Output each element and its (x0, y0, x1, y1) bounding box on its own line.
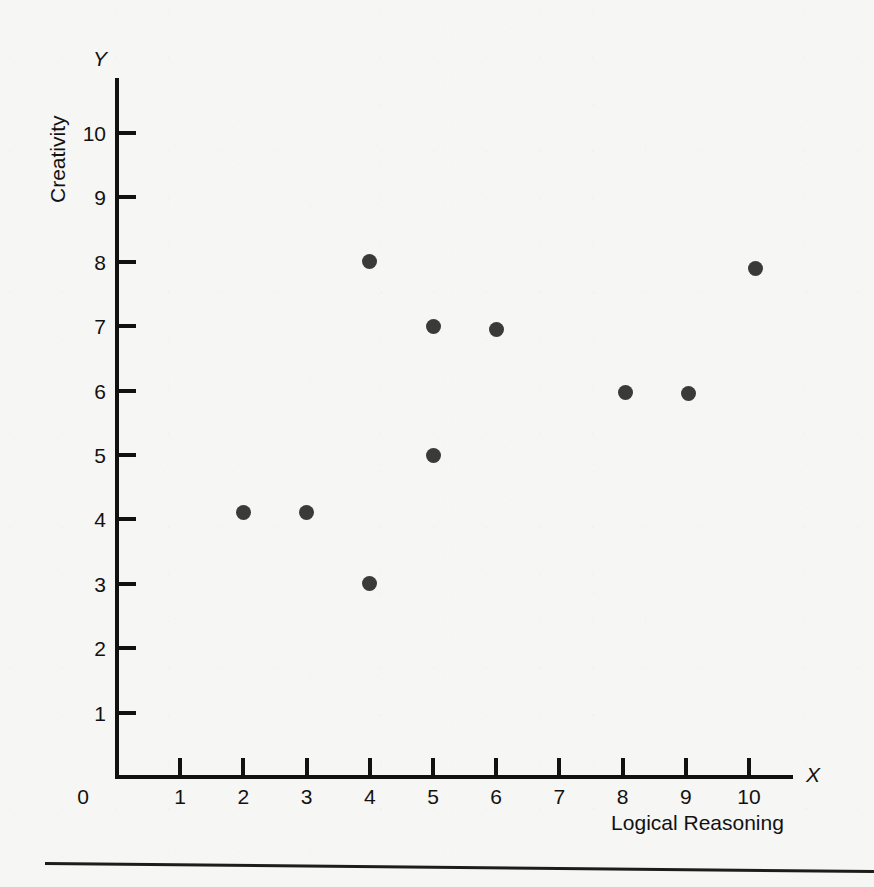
data-point (299, 505, 314, 520)
bottom-horizontal-rule (45, 862, 874, 873)
y-tick-label-9: 9 (60, 187, 106, 208)
y-tick-3 (119, 582, 136, 586)
x-tick-label-5: 5 (410, 786, 456, 807)
data-point (426, 448, 441, 463)
data-point (748, 261, 763, 276)
x-tick-label-6: 6 (473, 786, 519, 807)
y-tick-label-4: 4 (60, 509, 106, 530)
data-point (362, 254, 377, 269)
x-tick-label-7: 7 (536, 786, 582, 807)
y-tick-5 (119, 453, 136, 457)
data-point (681, 386, 696, 401)
x-tick-label-10: 10 (726, 786, 772, 807)
data-point (618, 385, 633, 400)
x-tick-label-3: 3 (284, 786, 330, 807)
y-tick-label-6: 6 (60, 381, 106, 402)
y-tick-label-3: 3 (60, 574, 106, 595)
y-tick-7 (119, 324, 136, 328)
y-axis-line (115, 78, 119, 779)
y-axis-symbol: Y (93, 48, 107, 69)
x-axis-line (115, 775, 793, 779)
y-tick-10 (119, 131, 136, 135)
data-point (236, 505, 251, 520)
x-axis-title: Logical Reasoning (560, 812, 835, 833)
y-tick-9 (119, 195, 136, 199)
x-tick-1 (178, 758, 182, 775)
x-tick-7 (557, 758, 561, 775)
x-tick-2 (241, 758, 245, 775)
x-tick-label-4: 4 (347, 786, 393, 807)
y-tick-1 (119, 711, 136, 715)
x-tick-4 (368, 758, 372, 775)
x-tick-label-2: 2 (220, 786, 266, 807)
x-tick-6 (494, 758, 498, 775)
x-tick-5 (431, 758, 435, 775)
data-point (362, 576, 377, 591)
x-axis-symbol: X (806, 764, 820, 785)
y-tick-label-5: 5 (60, 445, 106, 466)
data-point (489, 322, 504, 337)
x-tick-8 (621, 758, 625, 775)
x-tick-label-8: 8 (600, 786, 646, 807)
y-tick-label-7: 7 (60, 316, 106, 337)
y-tick-8 (119, 260, 136, 264)
y-tick-label-8: 8 (60, 252, 106, 273)
y-tick-label-10: 10 (60, 123, 106, 144)
x-tick-9 (684, 758, 688, 775)
y-tick-6 (119, 389, 136, 393)
x-tick-label-9: 9 (663, 786, 709, 807)
origin-tick-label: 0 (60, 786, 106, 807)
y-tick-label-1: 1 (60, 703, 106, 724)
y-tick-label-2: 2 (60, 638, 106, 659)
x-tick-label-1: 1 (157, 786, 203, 807)
scatter-plot-figure: Y X Creativity Logical Reasoning 0 12345… (0, 0, 874, 887)
data-point (426, 319, 441, 334)
y-tick-2 (119, 646, 136, 650)
x-tick-3 (305, 758, 309, 775)
x-tick-10 (747, 758, 751, 775)
y-tick-4 (119, 517, 136, 521)
